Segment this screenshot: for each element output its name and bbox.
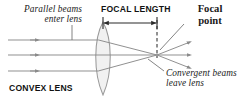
focal-length-measure [103, 17, 157, 29]
convex-lens-shape [96, 22, 110, 95]
outgoing-ray-lower [157, 55, 190, 68]
label-focal-length: FOCAL LENGTH [101, 5, 163, 15]
label-convergent-beams-leave-lens: Convergent beams leave lens [166, 68, 239, 89]
label-parallel-beams-enter-lens: Parallel beams enter lens [6, 4, 82, 25]
label-focal-point: Focal point [186, 3, 234, 27]
incoming-parallel-rays [8, 40, 99, 71]
label-convex-lens: CONVEX LENS [9, 84, 89, 94]
outgoing-divergent-rays [157, 42, 190, 68]
incoming-ray-arrowheads [30, 40, 38, 71]
convex-lens-diagram: Parallel beams enter lens FOCAL LENGTH F… [0, 0, 239, 100]
leader-line-convergent-beams [148, 59, 164, 71]
lens-biconvex-outline [96, 22, 110, 95]
